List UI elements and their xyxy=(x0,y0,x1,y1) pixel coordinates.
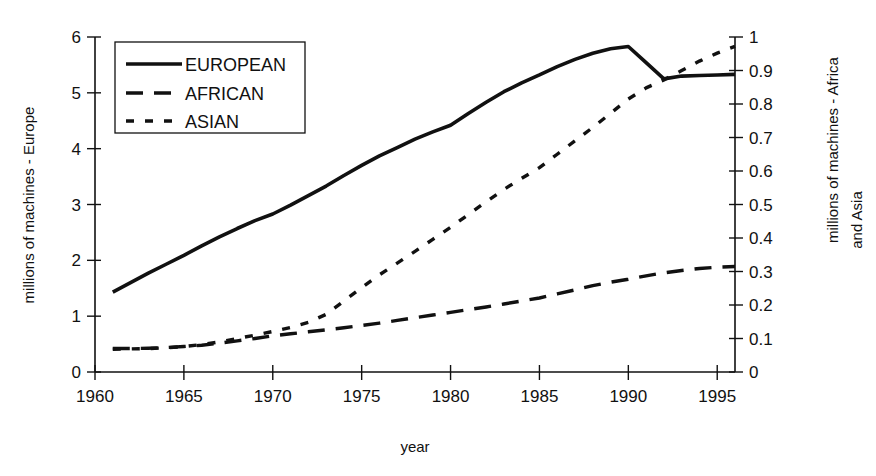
legend-label-european: EUROPEAN xyxy=(185,55,286,75)
right-tick-label: 0.6 xyxy=(749,162,773,181)
x-tick-label: 1970 xyxy=(254,387,292,406)
left-tick-label: 0 xyxy=(72,363,81,382)
right-tick-label: 0.8 xyxy=(749,95,773,114)
left-tick-label: 6 xyxy=(72,28,81,47)
x-axis-label: year xyxy=(400,438,429,455)
right-tick-label: 0.3 xyxy=(749,263,773,282)
x-tick-label: 1990 xyxy=(609,387,647,406)
x-tick-label: 1995 xyxy=(698,387,736,406)
right-tick-label: 0.1 xyxy=(749,330,773,349)
x-tick-label: 1965 xyxy=(165,387,203,406)
chart-figure: 0123456 00.10.20.30.40.50.60.70.80.91 19… xyxy=(0,0,876,476)
right-tick-label: 0.9 xyxy=(749,62,773,81)
right-tick-label: 0.2 xyxy=(749,296,773,315)
left-tick-label: 3 xyxy=(72,196,81,215)
legend-label-asian: ASIAN xyxy=(185,112,239,132)
x-tick-label: 1975 xyxy=(343,387,381,406)
legend-label-african: AFRICAN xyxy=(185,84,264,104)
right-tick-label: 0 xyxy=(749,363,758,382)
right-tick-label: 1 xyxy=(749,28,758,47)
y-axis-left-label: millions of machines - Europe xyxy=(20,107,37,304)
x-tick-label: 1960 xyxy=(76,387,114,406)
left-tick-label: 4 xyxy=(72,140,81,159)
y-axis-right-label-line2: and Asia xyxy=(848,191,865,249)
left-tick-label: 2 xyxy=(72,251,81,270)
y-axis-right-label-line1: millions of machines - Africa xyxy=(824,56,841,243)
x-tick-label: 1985 xyxy=(521,387,559,406)
left-tick-label: 5 xyxy=(72,84,81,103)
left-tick-label: 1 xyxy=(72,307,81,326)
x-tick-label: 1980 xyxy=(432,387,470,406)
right-tick-label: 0.5 xyxy=(749,196,773,215)
right-tick-label: 0.7 xyxy=(749,129,773,148)
right-tick-label: 0.4 xyxy=(749,229,773,248)
line-chart: 0123456 00.10.20.30.40.50.60.70.80.91 19… xyxy=(0,0,876,476)
chart-legend: EUROPEAN AFRICAN ASIAN xyxy=(115,42,305,133)
